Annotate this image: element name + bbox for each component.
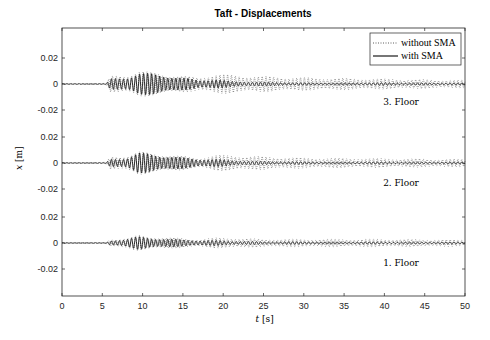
y-tick-label: -0.02: [37, 264, 58, 274]
series-with-sma-line: [62, 73, 465, 94]
y-tick-label: 0: [53, 79, 58, 89]
legend-label-with-sma: with SMA: [401, 50, 444, 61]
panel-label-floor-2: 2. Floor: [383, 178, 419, 188]
y-axis-label-unit: [m]: [14, 146, 24, 162]
chart: Taft - Displacements 0510152025303540455…: [0, 0, 490, 340]
x-tick-label: 25: [258, 301, 268, 311]
x-tick-label: 5: [100, 301, 105, 311]
y-axis-label: x [m]: [14, 146, 24, 170]
series-with-sma-line: [62, 237, 465, 250]
x-axis-label: t [s]: [255, 314, 273, 324]
x-tick-label: 10: [138, 301, 148, 311]
x-axis-label-var: t: [255, 314, 259, 324]
x-tick-label: 40: [379, 301, 389, 311]
y-tick-label: 0: [53, 158, 58, 168]
x-axis-label-unit: [s]: [262, 314, 274, 324]
y-tick-label: 0.02: [40, 132, 58, 142]
x-tick-label: 15: [178, 301, 188, 311]
x-tick-label: 50: [460, 301, 470, 311]
series-with-sma-line: [62, 153, 465, 173]
panel-label-floor-1: 1. Floor: [383, 258, 419, 268]
y-tick-label: -0.02: [37, 184, 58, 194]
x-tick-label: 35: [339, 301, 349, 311]
legend-label-without-sma: without SMA: [401, 37, 457, 48]
x-tick-label: 20: [218, 301, 228, 311]
y-tick-label: 0.02: [40, 212, 58, 222]
y-tick-label: -0.02: [37, 105, 58, 115]
y-axis-label-var: x: [14, 165, 24, 170]
x-tick-label: 45: [420, 301, 430, 311]
x-tick-label: 0: [59, 301, 64, 311]
legend: without SMA with SMA: [370, 33, 461, 65]
x-axis-ticks: 05101520253035404550: [59, 28, 470, 311]
chart-title: Taft - Displacements: [214, 8, 311, 19]
y-tick-label: 0: [53, 238, 58, 248]
y-tick-label: 0.02: [40, 53, 58, 63]
x-tick-label: 30: [299, 301, 309, 311]
panel-label-floor-3: 3. Floor: [383, 97, 419, 107]
